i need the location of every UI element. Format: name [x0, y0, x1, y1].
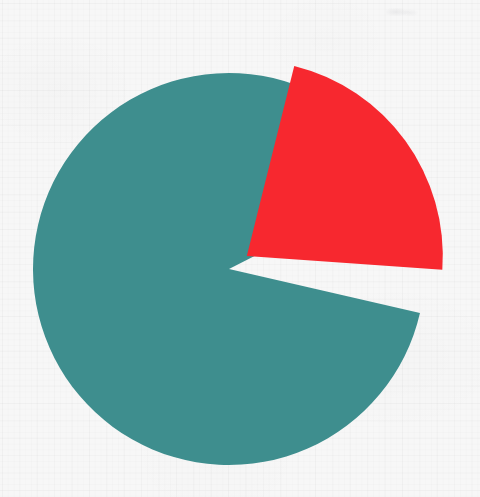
pie-chart — [0, 0, 480, 497]
chart-canvas — [0, 0, 480, 497]
